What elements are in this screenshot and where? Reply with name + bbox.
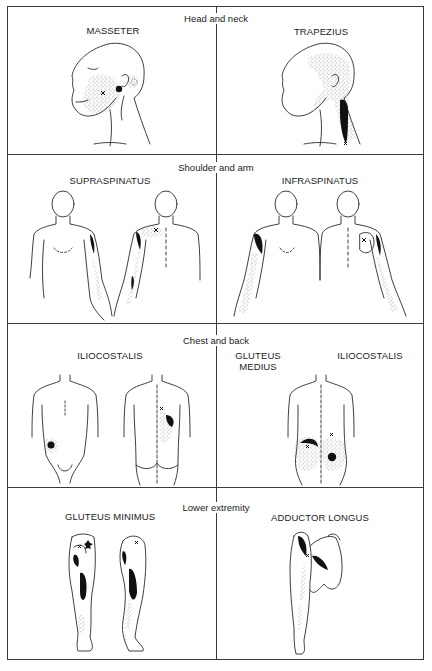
label-iliocostalis-left: ILIOCOSTALIS — [70, 350, 150, 361]
iliocostalis-front-figure — [30, 375, 100, 485]
label-supraspinatus: SUPRASPINATUS — [60, 175, 160, 186]
label-masseter: MASSETER — [78, 25, 148, 36]
section-title-head-neck: Head and neck — [0, 13, 432, 24]
label-infraspinatus: INFRASPINATUS — [270, 175, 370, 186]
supraspinatus-back-figure — [110, 188, 200, 320]
center-divider — [216, 6, 217, 660]
label-trapezius: TRAPEZIUS — [286, 26, 356, 37]
divider-2 — [7, 323, 424, 324]
label-adductor-longus: ADDUCTOR LONGUS — [260, 512, 380, 523]
infraspinatus-back-figure — [318, 188, 410, 320]
label-iliocostalis-right: ILIOCOSTALIS — [330, 350, 410, 361]
gluteus-medius-back-figure — [286, 375, 356, 485]
iliocostalis-back-figure — [122, 375, 192, 485]
gluteus-minimus-back-leg-figure — [66, 533, 100, 653]
label-gluteus-minimus: GLUTEUS MINIMUS — [55, 511, 165, 522]
infraspinatus-front-figure — [230, 188, 320, 320]
supraspinatus-front-figure — [28, 188, 112, 320]
divider-1 — [7, 154, 424, 155]
section-title-shoulder-arm: Shoulder and arm — [0, 162, 432, 173]
head-trapezius-figure — [278, 40, 368, 150]
divider-3 — [7, 487, 424, 488]
adductor-longus-leg-figure — [288, 530, 348, 656]
section-title-chest-back: Chest and back — [0, 335, 432, 346]
gluteus-minimus-side-leg-figure — [115, 533, 155, 653]
label-gluteus-medius: GLUTEUS MEDIUS — [228, 350, 288, 372]
head-masseter-figure — [68, 40, 158, 150]
